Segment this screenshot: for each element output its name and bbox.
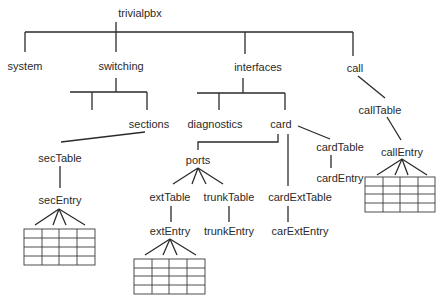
tree-labels: trivialpbx system switching interfaces c… <box>8 7 424 237</box>
node-secEntry: secEntry <box>39 194 82 206</box>
node-cardTable: cardTable <box>316 141 364 153</box>
mib-tree-diagram: trivialpbx system switching interfaces c… <box>0 0 442 305</box>
node-trunkTable: trunkTable <box>204 191 255 203</box>
node-card: card <box>270 118 291 130</box>
node-carExtEntry: carExtEntry <box>272 225 329 237</box>
node-system: system <box>8 60 43 72</box>
node-switching: switching <box>98 60 143 72</box>
node-interfaces: interfaces <box>234 61 282 73</box>
node-extEntry: extEntry <box>150 225 191 237</box>
node-callEntry: callEntry <box>381 146 424 158</box>
node-callTable: callTable <box>359 104 402 116</box>
node-sections: sections <box>129 118 170 130</box>
extEntry-table-icon <box>134 259 205 294</box>
node-extTable: extTable <box>150 191 191 203</box>
node-diagnostics: diagnostics <box>187 118 243 130</box>
node-call: call <box>347 62 364 74</box>
node-ports: ports <box>186 154 211 166</box>
callEntry-table-icon <box>365 177 435 212</box>
node-cardEntry: cardEntry <box>316 172 364 184</box>
node-trivialpbx: trivialpbx <box>118 7 162 19</box>
secEntry-table-icon <box>24 229 95 265</box>
node-trunkEntry: trunkEntry <box>204 225 255 237</box>
node-secTable: secTable <box>38 152 81 164</box>
tree-edges <box>25 22 427 255</box>
node-cardExtTable: cardExtTable <box>268 191 332 203</box>
